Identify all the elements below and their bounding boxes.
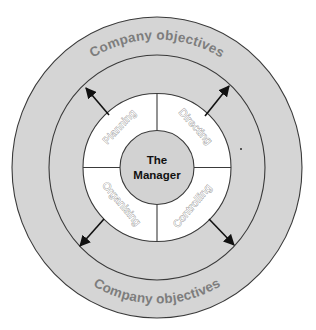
manager-core-circle (120, 131, 194, 205)
speck-mark (240, 148, 242, 150)
manager-functions-diagram: The Manager Planning Directing Organisin… (0, 0, 316, 330)
core-label-line2: Manager (133, 169, 181, 181)
core-label-line1: The (147, 154, 167, 166)
